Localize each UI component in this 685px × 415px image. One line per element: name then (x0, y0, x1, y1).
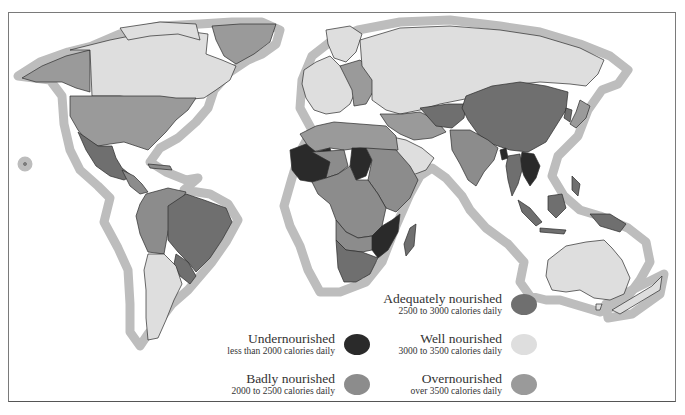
legend-title: Overnourished (410, 372, 502, 386)
legend-item-well: Well nourished 3000 to 3500 calories dai… (399, 332, 537, 357)
legend-swatch-adequately (511, 294, 537, 315)
region-australia (546, 240, 630, 300)
legend-item-over: Overnourished over 3500 calories daily (410, 372, 537, 397)
region-java (540, 228, 566, 234)
legend-range: 2000 to 2500 calories daily (232, 387, 335, 397)
legend-range: over 3500 calories daily (410, 387, 502, 397)
legend-title: Well nourished (399, 332, 502, 346)
region-papua (590, 214, 626, 232)
legend-swatch-undernourished (344, 334, 370, 355)
legend-range: 2500 to 3000 calories daily (383, 307, 502, 317)
hawaii-dot (24, 163, 27, 166)
region-philippines (572, 176, 580, 196)
region-greenland (212, 24, 276, 64)
legend-range: 3000 to 3500 calories daily (399, 347, 502, 357)
region-madagascar (404, 224, 416, 256)
region-sumatra (518, 200, 542, 226)
legend-item-adequately: Adequately nourished 2500 to 3000 calori… (383, 292, 537, 317)
region-scandinavia (326, 26, 362, 62)
region-cuba (148, 164, 172, 170)
region-north-africa (300, 122, 398, 152)
legend-title: Undernourished (227, 332, 335, 346)
region-central-america (122, 170, 148, 194)
legend-item-badly: Badly nourished 2000 to 2500 calories da… (232, 372, 370, 397)
legend-swatch-badly (344, 374, 370, 395)
legend-item-undernourished: Undernourished less than 2000 calories d… (227, 332, 370, 357)
legend-range: less than 2000 calories daily (227, 347, 335, 357)
legend-title: Badly nourished (232, 372, 335, 386)
south-america (136, 188, 232, 340)
region-borneo (548, 194, 566, 218)
oceania (518, 176, 662, 314)
region-bangladesh (500, 148, 508, 160)
legend-swatch-well (511, 334, 537, 355)
legend-title: Adequately nourished (383, 292, 502, 306)
region-indochina (520, 152, 540, 186)
legend-swatch-over (511, 374, 537, 395)
region-thailand-burma (506, 154, 522, 196)
